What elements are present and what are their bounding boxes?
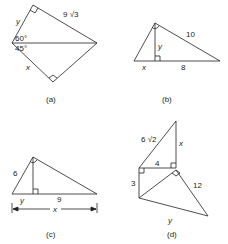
right-angle-mark-foot-b <box>155 56 160 61</box>
panel-c: 6 y 9 x (c) <box>12 157 97 239</box>
right-angle-mark-foot-c <box>33 189 38 194</box>
label-hyp-a: 9 √3 <box>63 10 79 19</box>
label-9: 9 <box>57 195 62 204</box>
label-8: 8 <box>181 63 186 72</box>
label-6root2: 6 √2 <box>141 135 157 144</box>
arrowhead-left <box>13 207 18 211</box>
right-angle-mark-bottom <box>49 75 57 78</box>
label-x-d: x <box>178 139 184 148</box>
label-x-c: x <box>52 205 58 214</box>
label-x-b: x <box>141 63 147 72</box>
label-y-c: y <box>19 196 25 205</box>
caption-d: (d) <box>167 230 177 239</box>
label-angle-45: 45° <box>15 44 27 53</box>
arrowhead-right <box>91 207 96 211</box>
label-x-a: x <box>25 63 31 72</box>
right-angle-mark-top-d <box>171 163 176 168</box>
right-angle-mark-diamond-d <box>172 170 180 176</box>
panel-b: 10 y x 8 (b) <box>134 23 220 104</box>
geometry-figure: y 9 √3 60° 45° x (a) 10 y x 8 (b) 6 y 9 … <box>0 0 228 244</box>
label-y-d: y <box>167 216 173 225</box>
label-6: 6 <box>13 169 18 178</box>
triangle-b <box>134 23 220 61</box>
label-4: 4 <box>155 159 160 168</box>
label-12: 12 <box>193 181 202 190</box>
label-10: 10 <box>186 30 195 39</box>
panel-a: y 9 √3 60° 45° x (a) <box>12 5 97 104</box>
panel-d: 6 √2 x 4 3 12 y (d) <box>131 121 208 239</box>
right-angle-mark-left-d <box>139 168 144 173</box>
label-3: 3 <box>131 179 136 188</box>
label-y-a: y <box>15 17 21 26</box>
label-y-b: y <box>157 42 163 51</box>
label-angle-60: 60° <box>15 34 27 43</box>
diagonal-d <box>139 170 176 198</box>
caption-b: (b) <box>162 95 172 104</box>
caption-c: (c) <box>46 230 56 239</box>
caption-a: (a) <box>46 95 56 104</box>
triangle-c <box>12 157 97 194</box>
